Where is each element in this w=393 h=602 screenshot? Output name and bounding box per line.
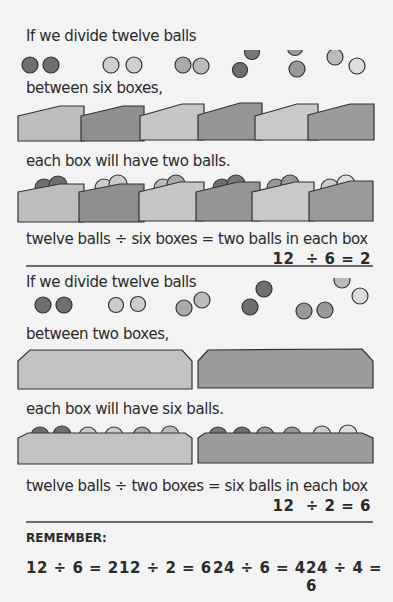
s1-empty-boxes-illustration	[0, 98, 393, 146]
s2-loose-balls-illustration	[0, 278, 393, 323]
fact-3: 24 ÷ 6 = 4	[213, 559, 306, 577]
s1-intro: If we divide twelve balls	[26, 27, 196, 45]
fact-4: 24 ÷ 4 = 6	[306, 559, 393, 595]
s1-words: twelve balls ÷ six boxes = two balls in …	[26, 230, 368, 248]
divider	[26, 265, 373, 267]
remember-label: REMEMBER:	[26, 531, 107, 545]
s1-result: each box will have two balls.	[26, 152, 230, 170]
s2-between: between two boxes,	[26, 325, 169, 343]
s1-loose-balls-illustration	[0, 50, 393, 80]
s2-filled-boxes-illustration	[0, 420, 393, 470]
fact-1: 12 ÷ 6 = 2	[26, 559, 119, 577]
divider	[26, 521, 373, 523]
fact-2: 12 ÷ 2 = 6	[119, 559, 212, 577]
s2-words: twelve balls ÷ two boxes = six balls in …	[26, 477, 368, 495]
s1-between: between six boxes,	[26, 79, 163, 97]
s1-filled-boxes-illustration	[0, 170, 393, 228]
s2-empty-boxes-illustration	[0, 347, 393, 392]
s2-equation: 12 ÷ 2 = 6	[273, 497, 372, 515]
s2-result: each box will have six balls.	[26, 400, 224, 418]
